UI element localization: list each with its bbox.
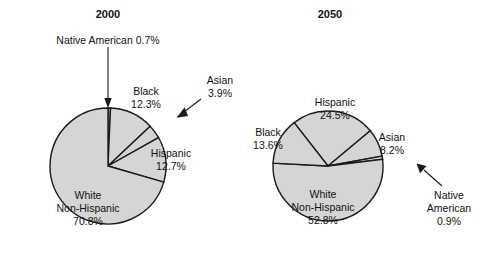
right-native-american-leader-line	[424, 170, 442, 186]
left-native-american-label: Native American 0.7%	[56, 34, 159, 46]
left-asian-label-line2: 3.9%	[208, 87, 232, 99]
population-pie-chart-figure: 2000 2050 Native American 0.7% Black 12.…	[0, 0, 488, 279]
left-native-american-arrow-icon	[104, 98, 111, 108]
right-white-label-line2: Non-Hispanic	[291, 201, 354, 213]
left-white-label-line2: Non-Hispanic	[56, 202, 119, 214]
right-native-american-arrow-icon	[417, 164, 427, 174]
left-white-label-line3: 70.8%	[73, 215, 103, 227]
right-asian-label-line1: Asian	[379, 131, 405, 143]
left-white-label-line1: White	[75, 189, 102, 201]
left-black-label-line2: 12.3%	[131, 98, 161, 110]
left-black-label-line1: Black	[133, 85, 159, 97]
right-native-label-line2: American	[427, 202, 472, 214]
right-hispanic-label-line1: Hispanic	[315, 96, 355, 108]
left-asian-label-line1: Asian	[207, 74, 233, 86]
right-chart-title: 2050	[318, 8, 342, 20]
right-black-label-line2: 13.6%	[253, 139, 283, 151]
right-white-label-line3: 52.8%	[308, 214, 338, 226]
left-hispanic-label-line1: Hispanic	[151, 147, 191, 159]
right-hispanic-label-line2: 24.5%	[320, 109, 350, 121]
left-asian-arrow-icon	[177, 107, 189, 118]
right-native-label-line1: Native	[434, 189, 464, 201]
right-black-label-line1: Black	[255, 126, 281, 138]
left-hispanic-label-line2: 12.7%	[156, 160, 186, 172]
right-asian-label-line2: 8.2%	[380, 144, 404, 156]
left-pie-chart	[50, 47, 201, 224]
left-chart-title: 2000	[96, 8, 120, 20]
right-native-label-line3: 0.9%	[437, 215, 461, 227]
right-white-label-line1: White	[310, 188, 337, 200]
left-asian-leader-line	[184, 99, 201, 112]
